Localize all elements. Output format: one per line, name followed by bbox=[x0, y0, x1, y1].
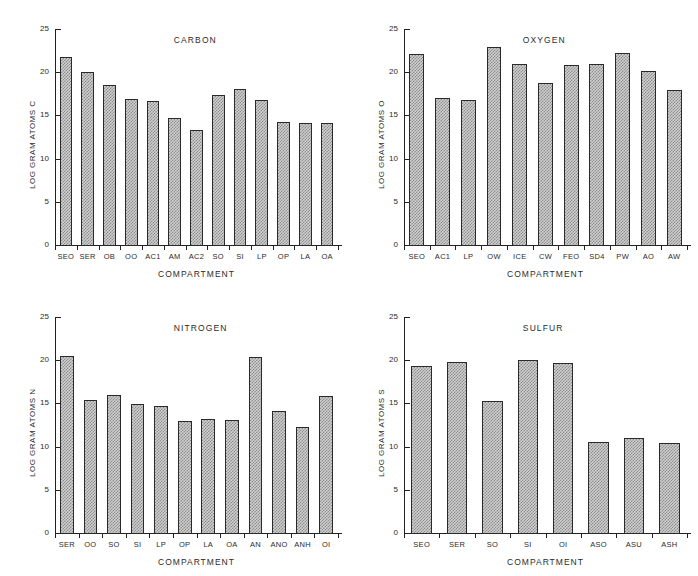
x-axis-tick-label: SO bbox=[475, 540, 510, 549]
bar bbox=[487, 47, 502, 246]
x-axis-tick-label: OO bbox=[79, 540, 103, 549]
bar bbox=[564, 65, 579, 246]
x-axis-tick bbox=[55, 246, 56, 250]
y-axis-spine bbox=[404, 29, 405, 246]
x-axis-tick bbox=[430, 246, 431, 250]
y-axis-spine bbox=[404, 317, 405, 534]
x-axis-tick-label: SD4 bbox=[584, 252, 610, 261]
y-axis-tick-label: 10 bbox=[23, 154, 49, 163]
y-axis-tick bbox=[405, 447, 410, 448]
x-axis-tick-label: LA bbox=[197, 540, 221, 549]
bar bbox=[409, 54, 424, 246]
x-axis-tick bbox=[173, 534, 174, 538]
x-axis-tick-label: SEO bbox=[404, 540, 439, 549]
x-axis-tick bbox=[338, 246, 339, 250]
y-axis-tick-label: 25 bbox=[23, 24, 49, 33]
bar bbox=[81, 72, 94, 246]
x-axis-tick-label: SO bbox=[102, 540, 126, 549]
x-axis-tick-label: AN bbox=[244, 540, 268, 549]
y-axis-tick bbox=[405, 490, 410, 491]
y-axis-tick bbox=[405, 317, 410, 318]
x-axis-tick-label: AC2 bbox=[186, 252, 208, 261]
x-axis-tick bbox=[251, 246, 252, 250]
y-axis-tick-label: 20 bbox=[372, 67, 398, 76]
y-axis-spine bbox=[55, 317, 56, 534]
x-axis-tick-label: CW bbox=[533, 252, 559, 261]
bar bbox=[131, 404, 145, 534]
x-axis-tick bbox=[687, 246, 688, 250]
x-axis-tick bbox=[558, 246, 559, 250]
y-axis-tick-label: 25 bbox=[372, 24, 398, 33]
x-axis-tick-label: OP bbox=[173, 540, 197, 549]
x-axis-tick-label: ANO bbox=[267, 540, 291, 549]
panel-sulfur: SULFURLOG GRAM ATOMS S0510152025SEOSERSO… bbox=[349, 288, 698, 576]
bar bbox=[125, 99, 138, 246]
x-axis-tick bbox=[126, 534, 127, 538]
bar bbox=[299, 123, 312, 246]
y-axis-spine bbox=[55, 29, 56, 246]
chart-title: CARBON bbox=[174, 35, 217, 45]
bar bbox=[225, 420, 239, 534]
x-axis-tick-label: OI bbox=[546, 540, 581, 549]
x-axis-tick-label: FEO bbox=[558, 252, 584, 261]
x-axis-tick-label: AM bbox=[164, 252, 186, 261]
y-axis-tick bbox=[405, 29, 410, 30]
bar bbox=[512, 64, 527, 246]
x-axis-tick bbox=[533, 246, 534, 250]
x-axis-tick-label: OA bbox=[316, 252, 338, 261]
x-axis-tick-label: ICE bbox=[507, 252, 533, 261]
bar bbox=[234, 89, 247, 246]
bar bbox=[147, 101, 160, 246]
x-axis-tick-label: OB bbox=[99, 252, 121, 261]
panel-oxygen: OXYGENLOG GRAM ATOMS O0510152025SEOAC1LP… bbox=[349, 0, 698, 288]
bar bbox=[667, 90, 682, 246]
x-axis-tick-label: ANH bbox=[291, 540, 315, 549]
x-axis-tick bbox=[581, 534, 582, 538]
bar bbox=[321, 123, 334, 246]
x-axis-tick-label: PW bbox=[610, 252, 636, 261]
y-axis-tick bbox=[405, 533, 410, 534]
four-panel-bar-chart-figure: CARBONLOG GRAM ATOMS C0510152025SEOSEROB… bbox=[0, 0, 698, 576]
x-axis-tick bbox=[404, 534, 405, 538]
x-axis-tick-label: LA bbox=[294, 252, 316, 261]
x-axis-tick-label: LP bbox=[149, 540, 173, 549]
x-axis-tick-label: LP bbox=[251, 252, 273, 261]
x-axis-tick bbox=[481, 246, 482, 250]
x-axis-tick-label: OO bbox=[120, 252, 142, 261]
x-axis-tick-label: SER bbox=[55, 540, 79, 549]
x-axis-tick bbox=[314, 534, 315, 538]
y-axis-tick bbox=[405, 403, 410, 404]
x-axis-tick-label: SO bbox=[207, 252, 229, 261]
x-axis-tick bbox=[636, 246, 637, 250]
bar bbox=[60, 356, 74, 534]
y-axis-tick bbox=[405, 360, 410, 361]
bar bbox=[641, 71, 656, 246]
x-axis-tick bbox=[267, 534, 268, 538]
x-axis-tick bbox=[510, 534, 511, 538]
x-axis-tick bbox=[616, 534, 617, 538]
bar bbox=[411, 366, 432, 534]
x-axis-tick bbox=[55, 534, 56, 538]
bar bbox=[589, 64, 604, 246]
bar bbox=[659, 443, 680, 534]
x-axis-tick bbox=[273, 246, 274, 250]
bar bbox=[107, 395, 121, 534]
x-axis-tick bbox=[584, 246, 585, 250]
bar bbox=[168, 118, 181, 246]
bar bbox=[154, 406, 168, 534]
x-axis-tick-label: ASU bbox=[616, 540, 651, 549]
x-axis-tick bbox=[316, 246, 317, 250]
x-axis-tick bbox=[291, 534, 292, 538]
bar bbox=[461, 100, 476, 246]
x-axis-tick bbox=[207, 246, 208, 250]
x-axis-tick bbox=[164, 246, 165, 250]
x-axis-label: COMPARTMENT bbox=[404, 269, 687, 279]
x-axis-tick-label: AC1 bbox=[430, 252, 456, 261]
bar bbox=[277, 122, 290, 246]
y-axis-tick-label: 0 bbox=[372, 240, 398, 249]
y-axis-tick-label: 0 bbox=[23, 240, 49, 249]
x-axis-tick-label: ASH bbox=[652, 540, 687, 549]
x-axis-tick-label: ASO bbox=[581, 540, 616, 549]
panel-carbon: CARBONLOG GRAM ATOMS C0510152025SEOSEROB… bbox=[0, 0, 349, 288]
bar bbox=[588, 442, 609, 534]
